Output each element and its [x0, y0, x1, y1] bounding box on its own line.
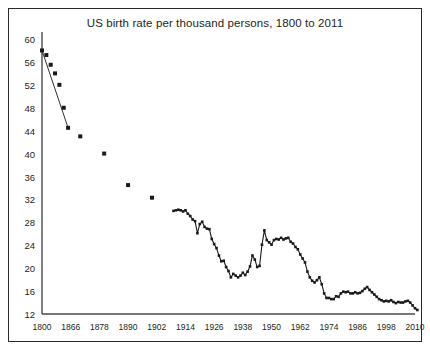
data-point-marker [179, 209, 182, 212]
birth-rate-line-segment [174, 210, 418, 310]
y-axis-tick-label: 44 [9, 125, 35, 136]
data-point-marker [390, 299, 393, 302]
data-point-marker [225, 266, 228, 269]
birth-rate-line-segment [42, 50, 68, 127]
data-point-marker [201, 220, 204, 223]
data-point-marker [385, 300, 388, 303]
data-point-marker [172, 210, 175, 213]
data-point-marker [232, 273, 235, 276]
data-point-marker [337, 296, 340, 299]
data-point-marker [191, 218, 194, 221]
data-point-marker [53, 71, 57, 75]
data-point-marker [363, 287, 366, 290]
data-point-marker [397, 301, 400, 304]
data-point-marker [175, 209, 178, 212]
data-point-marker [392, 301, 395, 304]
data-point-marker [308, 276, 311, 279]
data-point-marker [306, 270, 309, 273]
data-point-marker [330, 298, 333, 301]
data-point-marker [263, 229, 266, 232]
data-point-marker [275, 238, 278, 241]
chart-canvas [9, 9, 423, 343]
y-axis-tick-label: 56 [9, 56, 35, 67]
data-point-marker [213, 243, 216, 246]
data-point-marker [395, 302, 398, 305]
data-point-marker [230, 276, 233, 279]
data-point-marker [414, 307, 417, 310]
data-point-marker [318, 276, 321, 279]
data-point-marker [258, 265, 261, 268]
data-point-marker [380, 299, 383, 302]
data-point-marker [265, 239, 268, 242]
y-axis-tick-label: 28 [9, 217, 35, 228]
data-point-marker [325, 297, 328, 300]
data-point-marker [347, 290, 350, 293]
data-point-marker [361, 290, 364, 293]
data-point-marker [340, 292, 343, 295]
data-point-marker [299, 253, 302, 256]
x-axis-tick-label: 2010 [398, 322, 430, 332]
data-point-marker [383, 300, 386, 303]
data-point-marker [251, 254, 254, 257]
data-point-marker [402, 301, 405, 304]
data-point-marker [256, 266, 259, 269]
data-point-marker [234, 274, 237, 277]
data-point-marker [387, 300, 390, 303]
data-point-marker [371, 291, 374, 294]
data-point-marker [237, 276, 240, 279]
data-point-marker [203, 226, 206, 229]
data-point-marker [352, 292, 355, 295]
data-point-marker [328, 297, 331, 300]
data-point-marker [215, 247, 218, 250]
data-point-marker [220, 260, 223, 263]
data-point-marker [416, 309, 419, 312]
data-point-marker [285, 237, 288, 240]
data-point-marker [292, 242, 295, 245]
y-axis-tick-label: 36 [9, 171, 35, 182]
data-point-marker [218, 254, 221, 257]
data-point-marker [208, 228, 211, 231]
data-point-marker [182, 210, 185, 213]
data-point-marker [354, 291, 357, 294]
data-point-marker [277, 238, 280, 241]
data-point-marker [49, 63, 53, 67]
data-point-marker [244, 274, 247, 277]
data-point-marker [304, 261, 307, 264]
data-point-marker [40, 48, 44, 52]
y-axis-tick-label: 12 [9, 309, 35, 320]
data-point-marker [409, 301, 412, 304]
data-point-marker [62, 106, 66, 110]
y-axis-tick-label: 24 [9, 240, 35, 251]
data-point-marker [194, 220, 197, 223]
data-point-marker [227, 270, 230, 273]
plot-area: 12162024283236404448525660 1800186618781… [9, 9, 423, 343]
data-point-marker [177, 208, 180, 211]
y-axis-tick-label: 52 [9, 79, 35, 90]
data-point-marker [297, 248, 300, 251]
data-point-marker [335, 295, 338, 298]
data-point-marker [150, 196, 154, 200]
data-point-marker [268, 241, 271, 244]
y-axis-tick-label: 32 [9, 194, 35, 205]
data-point-marker [57, 83, 61, 87]
data-point-marker [206, 227, 209, 230]
y-axis-tick-label: 20 [9, 263, 35, 274]
birth-rate-markers [40, 48, 419, 311]
data-point-marker [189, 215, 192, 218]
data-point-marker [187, 212, 190, 215]
data-point-marker [184, 209, 187, 212]
data-point-marker [411, 304, 414, 307]
y-axis-tick-label: 16 [9, 286, 35, 297]
data-point-marker [373, 293, 376, 296]
data-point-marker [210, 238, 213, 241]
data-point-marker [249, 265, 252, 268]
data-point-marker [404, 300, 407, 303]
data-point-marker [287, 237, 290, 240]
data-point-marker [320, 283, 323, 286]
data-point-marker [126, 183, 130, 187]
data-point-marker [294, 246, 297, 249]
y-axis-tick-label: 48 [9, 102, 35, 113]
data-point-marker [366, 286, 369, 289]
data-point-marker [102, 152, 106, 156]
data-point-marker [342, 290, 345, 293]
